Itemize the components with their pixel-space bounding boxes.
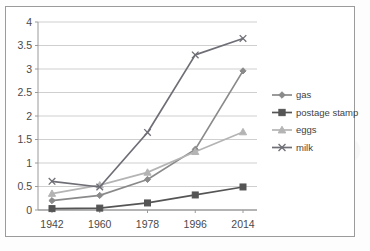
y-axis-tick-label: 0 bbox=[26, 204, 32, 216]
y-axis-tick-label: 0.5 bbox=[17, 180, 32, 192]
data-point-marker-square bbox=[145, 200, 151, 206]
chart-legend: gaspostage stampeggsmilk bbox=[272, 89, 358, 152]
series-line bbox=[52, 38, 243, 187]
legend-item-milk[interactable]: milk bbox=[272, 142, 313, 153]
data-point-marker-diamond bbox=[97, 192, 103, 198]
y-axis-tick-label: 2 bbox=[26, 110, 32, 122]
y-axis-tick-label: 2.5 bbox=[17, 86, 32, 98]
series-gas bbox=[49, 68, 246, 204]
y-axis-tick-label: 3 bbox=[26, 63, 32, 75]
y-axis-tick-label: 4 bbox=[26, 16, 32, 28]
data-point-marker-square bbox=[192, 192, 198, 198]
data-series-group bbox=[48, 35, 246, 211]
y-axis-tick-label: 1 bbox=[26, 157, 32, 169]
legend-label: gas bbox=[296, 89, 312, 100]
y-axis-tick-label: 1.5 bbox=[17, 133, 32, 145]
x-axis-tick-label: 1978 bbox=[136, 218, 160, 230]
x-axis-tick-label: 1960 bbox=[88, 218, 112, 230]
legend-label: eggs bbox=[296, 124, 317, 135]
data-point-marker-diamond bbox=[49, 198, 55, 204]
legend-label: milk bbox=[296, 142, 313, 153]
data-point-marker-square bbox=[97, 205, 103, 211]
data-point-marker-diamond bbox=[279, 92, 286, 99]
data-point-marker-square bbox=[49, 206, 55, 212]
chart-svg: 00.511.522.533.54 19421960197819962014 g… bbox=[0, 0, 370, 251]
legend-item-eggs[interactable]: eggs bbox=[272, 124, 317, 135]
data-point-marker-square bbox=[279, 109, 285, 115]
y-axis-tick-labels: 00.511.522.533.54 bbox=[17, 16, 32, 216]
y-axis-tick-label: 3.5 bbox=[17, 39, 32, 51]
x-axis-tick-label: 1996 bbox=[184, 218, 208, 230]
axes-group bbox=[35, 22, 257, 213]
data-point-marker-triangle bbox=[239, 128, 246, 134]
legend-item-postage-stamp[interactable]: postage stamp bbox=[272, 107, 358, 118]
line-chart: 00.511.522.533.54 19421960197819962014 g… bbox=[0, 0, 370, 251]
legend-item-gas[interactable]: gas bbox=[272, 89, 312, 100]
x-axis-tick-label: 2014 bbox=[231, 218, 255, 230]
x-axis-tick-labels: 19421960197819962014 bbox=[40, 218, 255, 230]
legend-label: postage stamp bbox=[296, 107, 358, 118]
data-point-marker-square bbox=[240, 184, 246, 190]
x-axis-tick-label: 1942 bbox=[40, 218, 64, 230]
